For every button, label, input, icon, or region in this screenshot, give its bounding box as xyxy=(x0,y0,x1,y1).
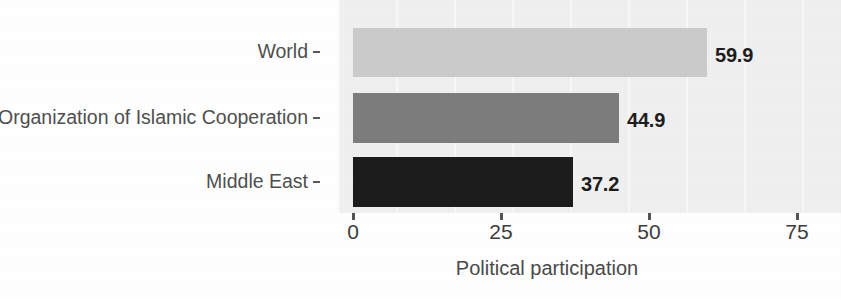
x-axis-tick-mark xyxy=(648,213,651,220)
y-axis-label-middle-east: Middle East xyxy=(206,172,308,192)
x-axis-tick-mark xyxy=(352,213,355,220)
y-axis-label-world: World xyxy=(257,42,308,62)
bar-value-organization-of-islamic-cooperation: 44.9 xyxy=(627,110,665,130)
y-axis-tick-dash xyxy=(313,117,320,120)
bar-world xyxy=(353,28,707,77)
x-axis-tick-label-0: 0 xyxy=(347,221,359,242)
x-axis-tick-label-25: 25 xyxy=(489,221,512,242)
bar-chart-figure: World Organization of Islamic Cooperatio… xyxy=(0,0,841,299)
x-axis-tick-mark xyxy=(500,213,503,220)
x-axis-tick-label-75: 75 xyxy=(785,221,808,242)
bar-value-world: 59.9 xyxy=(715,45,753,65)
bar-value-middle-east: 37.2 xyxy=(581,174,619,194)
bar-organization-of-islamic-cooperation xyxy=(353,93,619,143)
y-axis-tick-dash xyxy=(313,51,320,54)
x-axis-title: Political participation xyxy=(456,258,638,278)
x-axis: 0 25 50 75 Political participation xyxy=(0,213,841,299)
y-axis-tick-dash xyxy=(313,181,320,184)
y-axis-label-organization-of-islamic-cooperation: Organization of Islamic Cooperation xyxy=(0,108,308,128)
y-axis-category-labels: World Organization of Islamic Cooperatio… xyxy=(0,0,328,213)
x-axis-tick-label-50: 50 xyxy=(637,221,660,242)
bar-middle-east xyxy=(353,157,573,207)
x-axis-tick-mark xyxy=(796,213,799,220)
